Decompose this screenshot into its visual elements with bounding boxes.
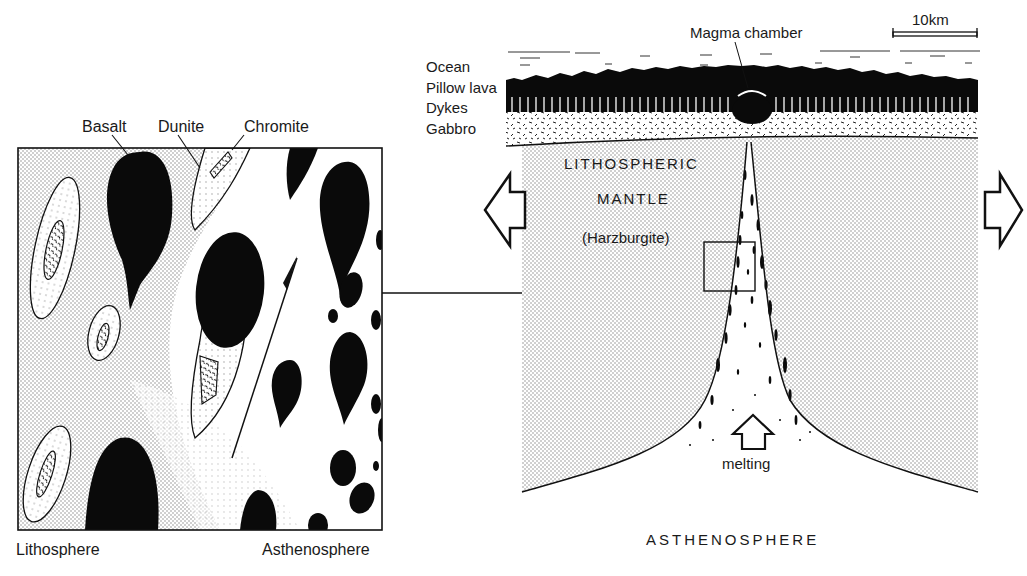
label-pillow-lava: Pillow lava: [426, 79, 498, 96]
label-basalt: Basalt: [82, 118, 127, 135]
label-melting: melting: [722, 455, 770, 472]
magma-chamber: [732, 96, 772, 124]
label-lithospheric: LITHOSPHERIC: [564, 155, 699, 172]
label-chromite: Chromite: [244, 118, 309, 135]
label-magma-chamber: Magma chamber: [690, 24, 803, 41]
label-ocean: Ocean: [426, 58, 470, 75]
label-asthenosphere-small: Asthenosphere: [262, 541, 370, 558]
spreading-arrow-right: [985, 174, 1022, 246]
label-lithosphere: Lithosphere: [16, 541, 100, 558]
label-scale: 10km: [912, 11, 949, 28]
label-dunite: Dunite: [158, 118, 204, 135]
right-panel-cross-section: [485, 28, 1022, 492]
label-mantle: MANTLE: [597, 190, 670, 207]
label-gabbro: Gabbro: [426, 120, 476, 137]
label-dykes: Dykes: [426, 99, 468, 116]
spreading-arrow-left: [485, 174, 525, 246]
left-panel-detail: [13, 135, 386, 537]
label-asthenosphere: ASTHENOSPHERE: [646, 531, 819, 548]
label-harzburgite: (Harzburgite): [582, 229, 670, 246]
diagram-canvas: Basalt Dunite Chromite Lithosphere Asthe…: [0, 0, 1027, 576]
ocean-layer: [508, 51, 980, 65]
scale-bar: [893, 32, 977, 36]
